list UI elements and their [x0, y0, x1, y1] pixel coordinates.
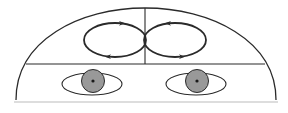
- left-eye: [62, 70, 122, 96]
- head-outline: [16, 8, 276, 100]
- right-pupil: [195, 79, 198, 82]
- left-pupil: [91, 79, 94, 82]
- left-rotation-loop: [84, 23, 146, 57]
- right-eye: [166, 70, 226, 96]
- right-rotation-loop: [144, 23, 206, 57]
- head-rotation-diagram: [0, 0, 288, 113]
